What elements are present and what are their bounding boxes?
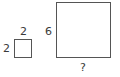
small-square: [14, 39, 32, 58]
small-square-top-label: 2: [20, 26, 27, 37]
small-square-left-label: 2: [3, 43, 10, 54]
large-square: [56, 2, 111, 58]
large-square-left-label: 6: [45, 26, 52, 37]
large-square-bottom-label: ?: [80, 62, 86, 73]
